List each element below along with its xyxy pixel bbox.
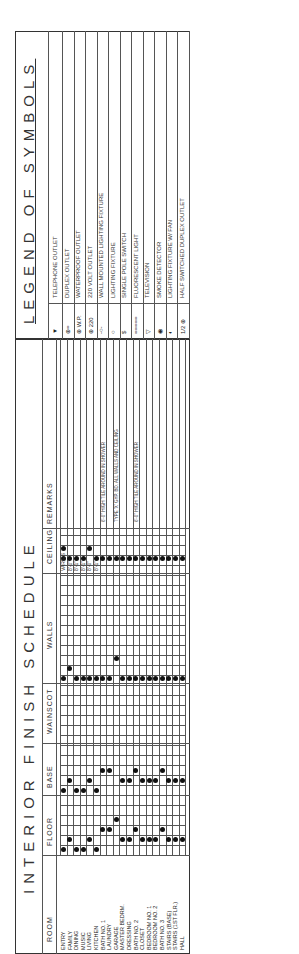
room-label: BATH NO. 2: [133, 920, 139, 950]
legend-symbol-icon: 1/2 ⊕: [179, 319, 186, 334]
legend-label: DUPLEX OUTLET: [64, 249, 70, 298]
grid-col-line: [60, 705, 185, 706]
legend-label: TELEPHONE OUTLET: [52, 236, 58, 298]
legend-label: 220 VOLT OUTLET: [87, 246, 93, 298]
divider: [48, 31, 49, 339]
room-label: BATH NO. 3: [159, 920, 165, 950]
divider: [42, 528, 190, 529]
grid-row-line: [80, 339, 81, 856]
grid-row-line: [106, 339, 107, 856]
legend-symbol-icon: -○-: [98, 326, 104, 334]
legend-label: LIGHTING FIXTURE: [110, 242, 116, 298]
room-label: STAIRS (1ST FLR.): [172, 902, 178, 950]
ceiling-height-value: 8'-1": [94, 561, 99, 571]
grid-col-line: [60, 645, 185, 646]
legend-label: WALL MOUNTED LIGHTING FIXTURE: [98, 193, 104, 298]
ceiling-height-value: 8'-0": [68, 561, 73, 571]
legend-symbol-icon: ◐: [167, 330, 173, 334]
grid-col-line: [60, 745, 185, 746]
legend-symbol-icon: $: [121, 331, 127, 334]
schedule-title: INTERIOR FINISH SCHEDULE: [20, 539, 37, 894]
legend-label: SINGLE POLE SWITCH: [121, 233, 127, 298]
header-floor: FLOOR: [46, 817, 53, 846]
grid-col-line: [60, 825, 185, 826]
grid-col-line: [60, 755, 185, 756]
grid-col-line: [60, 625, 185, 626]
grid-col-line: [60, 735, 185, 736]
header-base: BASE: [46, 765, 53, 788]
grid-row-line: [185, 339, 186, 856]
legend-title: LEGEND OF SYMBOLS: [20, 59, 37, 324]
room-label: STAIRS (BASE): [166, 911, 172, 950]
legend-symbol-icon: ⊕ 220: [87, 317, 94, 334]
legend-row-line: [189, 31, 190, 339]
grid-col-line: [60, 785, 185, 786]
room-label: MASTER BEDRM.: [119, 904, 125, 950]
legend-label: TELEVISION: [144, 263, 150, 298]
remark-text: TYPE 'X' GYP. BD. ALL WALLS AND CEILING: [114, 429, 119, 522]
divider: [42, 339, 43, 954]
legend-symbol-icon: ▼: [52, 328, 58, 334]
ceiling-height-value: 8'-1": [81, 561, 86, 571]
grid-col-line: [60, 575, 185, 576]
room-label: BEDROOM NO. 1: [146, 906, 152, 950]
room-label: LIVING: [86, 932, 92, 950]
room-label: BEDROOM NO. 2: [152, 906, 158, 950]
divider: [42, 743, 190, 744]
grid-row-line: [73, 339, 74, 856]
header-wainscot: WAINSCOT: [46, 689, 53, 734]
drawing-sheet: INTERIOR FINISH SCHEDULE ROOM FLOOR BASE…: [0, 0, 299, 954]
header-room: ROOM: [46, 916, 53, 942]
remark-text: 6'-0" HIGH TILE AROUND IN SHOWER: [134, 442, 139, 522]
grid-col-line: [60, 665, 185, 666]
grid-row-line: [100, 339, 101, 856]
grid-col-line: [60, 775, 185, 776]
legend-symbol-icon: ▽: [144, 329, 151, 334]
room-label: DRESSING: [126, 921, 132, 950]
grid-col-line: [60, 765, 185, 766]
legend-label: LIGHTING FIXTURE W/ FAN: [167, 220, 173, 298]
room-label: ENTRY: [60, 931, 66, 950]
grid-col-line: [60, 615, 185, 616]
grid-col-line: [60, 845, 185, 846]
room-label: MUSIC: [80, 932, 86, 950]
legend-label: HALF SWITCHED DUPLEX OUTLET: [179, 198, 185, 298]
grid-col-line: [60, 715, 185, 716]
grid-col-line: [60, 605, 185, 606]
ceiling-height-value: 8'-1": [74, 561, 79, 571]
room-label: CLOSET: [139, 928, 145, 950]
room-label: BATH NO. 1: [100, 920, 106, 950]
room-label: LAUNDRY: [106, 924, 112, 950]
grid-col-line: [60, 725, 185, 726]
header-ceiling: CEILING: [46, 529, 53, 564]
grid-col-line: [60, 655, 185, 656]
grid-col-line: [60, 805, 185, 806]
ceiling-height-value: 8'-0": [87, 561, 92, 571]
grid-col-line: [60, 635, 185, 636]
grid-row-line: [93, 339, 94, 856]
header-walls: WALLS: [46, 621, 53, 649]
grid-col-line: [60, 535, 185, 536]
grid-row-line: [133, 339, 134, 856]
grid-col-line: [60, 835, 185, 836]
room-label: DINING: [73, 931, 79, 950]
legend-symbol-icon: ○: [110, 330, 116, 334]
divider: [42, 573, 190, 574]
grid-col-line: [60, 855, 185, 856]
grid-row-line: [60, 339, 61, 856]
grid-col-line: [60, 585, 185, 586]
legend-label: SMOKE DETECTOR: [156, 242, 162, 298]
legend-symbol-icon: =====: [133, 316, 139, 334]
legend-symbol-icon: ◉: [156, 329, 163, 334]
ceiling-height-value: VARIES: [61, 553, 66, 571]
legend-symbol-icon: ⊕ W.P.: [75, 315, 82, 334]
legend-symbol-icon: ⊕=: [64, 325, 71, 334]
header-remarks: REMARKS: [46, 482, 53, 524]
grid-row-line: [113, 339, 114, 856]
legend-label: FLUORESCENT LIGHT: [133, 234, 139, 298]
divider: [56, 339, 57, 954]
grid-col-line: [60, 545, 185, 546]
room-label: GARAGE: [113, 926, 119, 950]
grid-col-line: [60, 595, 185, 596]
room-label: KITCHEN: [93, 926, 99, 950]
